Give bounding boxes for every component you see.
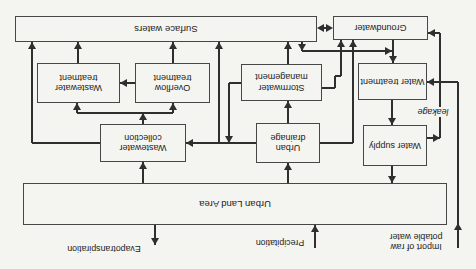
arrowhead bbox=[311, 225, 319, 232]
arrowhead bbox=[169, 42, 177, 49]
arrowhead-into-groundwater bbox=[326, 24, 333, 32]
flow-urban-drainage-to-groundwater-drop bbox=[352, 40, 354, 143]
arrowhead bbox=[388, 118, 396, 125]
flow-surface-waters-to-water-treatment bbox=[302, 50, 392, 52]
label-import-line2: potable water bbox=[380, 232, 452, 242]
box-water-supply: Water supply bbox=[363, 125, 427, 166]
box-wastewater-treatment: Wastewater treatment bbox=[37, 63, 120, 103]
label-import-raw-water: Import of raw potable water bbox=[380, 232, 452, 252]
flow-wastewater-collection-to-surface-waters bbox=[32, 142, 100, 144]
box-urban-land-area: Urban Land Area bbox=[23, 183, 447, 225]
arrowhead-midline bbox=[454, 223, 462, 230]
box-stormwater-management: Stormwater management bbox=[241, 64, 322, 101]
arrowhead bbox=[74, 42, 82, 49]
flow-wastewater-collection-to-surface-waters-drop bbox=[31, 42, 33, 143]
flow-stormwater-to-sewer-rise bbox=[228, 83, 230, 143]
arrowhead bbox=[284, 163, 292, 170]
arrowhead bbox=[186, 139, 193, 147]
arrowhead bbox=[284, 101, 292, 108]
arrowhead bbox=[388, 176, 396, 183]
arrowhead bbox=[120, 79, 127, 87]
flow-stormwater-to-groundwater bbox=[322, 87, 335, 89]
box-surface-waters: Surface waters bbox=[15, 16, 317, 42]
arrowhead bbox=[225, 136, 233, 143]
splitter-line bbox=[77, 112, 173, 114]
box-wastewater-collection: Wastewater collection bbox=[100, 124, 186, 162]
arrowhead bbox=[337, 40, 345, 47]
arrowhead bbox=[284, 42, 292, 49]
flow-stormwater-to-sewer bbox=[229, 82, 241, 84]
arrowhead bbox=[215, 42, 223, 49]
box-urban-drainage: Urban drainage bbox=[256, 123, 320, 163]
label-import-line1: Import of raw bbox=[380, 242, 452, 252]
arrowhead-into-surface-waters bbox=[317, 24, 324, 32]
flow-urban-drainage-to-groundwater bbox=[320, 142, 353, 144]
arrowhead bbox=[428, 29, 435, 37]
arrowhead-junction bbox=[139, 113, 147, 120]
arrowhead bbox=[427, 78, 434, 86]
flow-sewer-junction-to-surface-waters bbox=[218, 42, 220, 143]
arrowhead bbox=[28, 42, 36, 49]
arrowhead bbox=[151, 238, 159, 245]
arrowhead bbox=[73, 103, 81, 110]
flow-urban-drainage-to-collection bbox=[186, 142, 256, 144]
arrowhead bbox=[169, 103, 177, 110]
arrowhead bbox=[349, 40, 357, 47]
arrowhead bbox=[385, 47, 392, 55]
flow-stormwater-to-groundwater-jog1 bbox=[334, 76, 336, 88]
label-leakage: leakage bbox=[412, 107, 454, 117]
box-groundwater: Groundwater bbox=[333, 16, 428, 40]
urban-water-cycle-diagram: Surface waters Groundwater Wastewater tr… bbox=[0, 0, 476, 269]
label-evapotranspiration: Evapotranspiration bbox=[56, 244, 152, 254]
box-water-treatment: Water treatment bbox=[358, 63, 427, 100]
arrowhead bbox=[139, 162, 147, 169]
arrowhead bbox=[389, 56, 397, 63]
box-overflow-treatment: Overflow treatment bbox=[135, 63, 210, 103]
flow-leakage-drop bbox=[439, 33, 441, 138]
label-precipitation: Precipitation bbox=[247, 238, 313, 248]
